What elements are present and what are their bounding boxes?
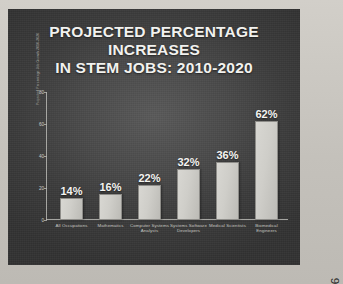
bar-value-label: 14% xyxy=(60,185,82,197)
bar: 62%Biomedical Engineers xyxy=(255,121,278,220)
infographic-page: PROJECTED PERCENTAGE INCREASES IN STEM J… xyxy=(0,0,343,284)
y-axis-tick-label: 0 xyxy=(33,218,44,223)
bar: 36%Medical Scientists xyxy=(216,162,239,220)
chart-title-line-2: IN STEM JOBS: 2010-2020 xyxy=(8,59,300,77)
y-axis-tick-label: 40 xyxy=(33,154,44,159)
source-caption-area: Source: https://www.dvidshub.net/image/2… xyxy=(300,0,343,284)
source-caption: Source: https://www.dvidshub.net/image/2… xyxy=(329,278,341,284)
y-axis-tick-mark xyxy=(44,188,47,189)
x-axis-category-label: All Occupations xyxy=(51,223,91,228)
x-axis-category-label: Medical Scientists xyxy=(207,223,247,228)
bar-value-label: 36% xyxy=(216,149,238,161)
x-axis-category-label: Computer Systems Analysts xyxy=(129,223,169,234)
chart-panel: PROJECTED PERCENTAGE INCREASES IN STEM J… xyxy=(8,9,300,265)
bar-value-label: 62% xyxy=(255,108,277,120)
bar: 14%All Occupations xyxy=(60,198,83,220)
y-axis-tick-mark xyxy=(44,124,47,125)
bar-value-label: 32% xyxy=(177,156,199,168)
bar: 16%Mathematics xyxy=(99,194,122,220)
x-axis-category-label: Mathematics xyxy=(90,223,130,228)
bar: 22%Computer Systems Analysts xyxy=(138,185,161,220)
x-axis-category-label: Systems Software Developers xyxy=(168,223,208,234)
y-axis-tick-label: 20 xyxy=(33,186,44,191)
y-axis-tick-mark xyxy=(44,156,47,157)
x-axis-category-label: Biomedical Engineers xyxy=(246,223,286,234)
bar: 32%Systems Software Developers xyxy=(177,169,200,220)
bar-value-label: 16% xyxy=(99,181,121,193)
y-axis-tick-mark xyxy=(44,220,47,221)
bar-value-label: 22% xyxy=(138,172,160,184)
chart-title: PROJECTED PERCENTAGE INCREASES IN STEM J… xyxy=(8,23,300,77)
plot-area: 020406080 14%All Occupations16%Mathemati… xyxy=(46,92,286,220)
y-axis-tick-mark xyxy=(44,92,47,93)
chart-title-line-1: PROJECTED PERCENTAGE INCREASES xyxy=(49,23,259,58)
y-axis-tick-label: 80 xyxy=(33,90,44,95)
y-axis-tick-label: 60 xyxy=(33,122,44,127)
